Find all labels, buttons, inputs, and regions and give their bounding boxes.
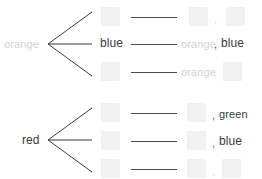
- connector-line: [131, 113, 177, 114]
- redacted-node-chip[interactable]: [101, 159, 120, 178]
- redacted-result-chip-1[interactable]: [189, 7, 208, 26]
- redacted-node-chip[interactable]: [101, 131, 120, 150]
- redacted-result-chip[interactable]: [187, 103, 206, 122]
- result-part-orange: orange: [181, 67, 216, 78]
- redacted-node-chip[interactable]: [101, 7, 120, 26]
- result-part-blue: blue: [219, 136, 242, 147]
- result-separator: ,: [212, 138, 215, 149]
- redacted-result-chip-2[interactable]: [222, 159, 241, 178]
- redacted-result-chip-1[interactable]: [187, 159, 206, 178]
- result-separator: ,: [214, 14, 217, 25]
- result-separator: ,: [212, 166, 215, 177]
- connector-line: [131, 72, 177, 73]
- result-separator: ,: [212, 110, 215, 121]
- result-separator: ,: [214, 39, 217, 50]
- connector-line: [131, 44, 177, 45]
- branch-fan-red: [46, 106, 94, 174]
- connector-line: [131, 17, 177, 18]
- redacted-node-chip[interactable]: [101, 103, 120, 122]
- result-part-orange: orange: [181, 39, 216, 50]
- branch-fan-orange: [46, 10, 94, 78]
- redacted-result-chip-2[interactable]: [226, 7, 245, 26]
- result-part-green: green: [219, 109, 248, 120]
- node-label-blue: blue: [100, 38, 123, 49]
- connector-line: [131, 169, 177, 170]
- result-separator: ,: [214, 67, 217, 78]
- redacted-result-chip[interactable]: [187, 131, 206, 150]
- redacted-result-chip[interactable]: [223, 62, 242, 81]
- connector-line: [131, 141, 177, 142]
- root-label-orange: orange: [4, 39, 39, 50]
- root-label-red: red: [22, 135, 40, 146]
- result-part-blue: blue: [221, 38, 244, 49]
- redacted-node-chip[interactable]: [101, 62, 120, 81]
